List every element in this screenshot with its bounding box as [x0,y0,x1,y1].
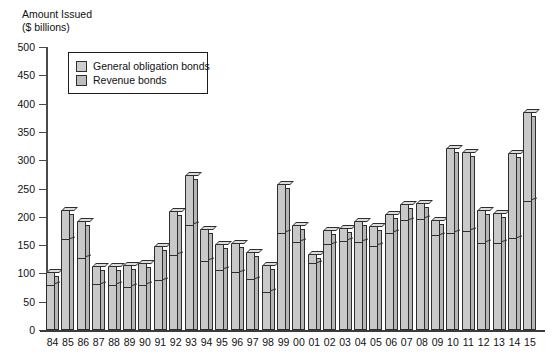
bar [354,221,367,330]
bar-side-face [332,234,336,330]
bar-front-face [200,229,209,330]
bar-chart: Amount Issued($ billions) 05010015020025… [0,0,558,364]
y-axis-label: 400 [1,98,35,110]
y-axis-tick [39,217,46,218]
bar-front-face [416,203,425,330]
bar-segment-divider [262,292,271,293]
bar-front-face [477,210,486,330]
legend-label-general-obligation-bonds: General obligation bonds [93,60,210,72]
bar-side-face [471,156,475,330]
bar-segment-divider [46,285,55,286]
bar-front-face [123,265,132,330]
bar-top-face [231,240,248,244]
bar-front-face [462,152,471,330]
x-axis-label: 15 [520,336,539,348]
bar-top-face [416,200,433,204]
bar [262,265,275,330]
bar-segment-divider [154,280,163,281]
y-axis-tick [39,132,46,133]
bar-front-face [231,243,240,330]
bar [77,221,90,330]
bar-side-face [455,152,459,330]
bar-side-face [394,218,398,330]
bar [446,148,459,330]
bar [169,211,182,330]
bar-segment-divider [493,243,502,244]
bar [477,210,490,330]
bar [431,220,444,330]
bar-segment-divider [354,242,363,243]
bar [339,228,352,330]
bar-segment-divider [339,241,348,242]
y-axis-label: 350 [1,126,35,138]
bar-front-face [46,272,55,330]
bar-front-face [262,265,271,330]
legend-swatch-icon [76,75,87,86]
bar-segment-divider [446,233,455,234]
bar-side-face [86,225,90,330]
y-axis-tick [39,273,46,274]
bar-side-face [425,207,429,330]
bar-front-face [308,254,317,330]
bar [400,204,413,330]
legend-item-revenue-bonds: Revenue bonds [76,74,200,86]
bar-side-face [378,230,382,330]
bar-front-face [92,266,101,330]
bar-segment-divider [292,242,301,243]
bar [231,243,244,330]
bar-front-face [523,112,532,330]
bar-top-face [77,218,94,222]
bar-side-face [194,179,198,330]
y-axis-tick [39,47,46,48]
bar-top-face [523,109,540,113]
bar-side-face [348,232,352,330]
bar-segment-divider [308,263,317,264]
legend-swatch-icon [76,61,87,72]
bar-side-face [502,217,506,330]
bar [123,265,136,330]
bar-segment-divider [508,238,517,239]
bar-top-face [354,218,371,222]
bar-segment-divider [77,258,86,259]
bar-side-face [224,248,228,330]
bar-segment-divider [400,220,409,221]
bar [369,226,382,330]
bar-front-face [61,210,70,330]
bar-segment-divider [523,201,532,202]
bar-front-face [508,153,517,330]
bar [462,152,475,330]
bar-front-face [154,246,163,330]
y-axis-label: 0 [1,324,35,336]
bar-segment-divider [385,233,394,234]
y-axis-tick [39,75,46,76]
bar-side-face [163,250,167,330]
y-axis-tick [39,245,46,246]
bar [138,263,151,330]
bar-segment-divider [477,243,486,244]
y-axis-label: 200 [1,211,35,223]
bar-top-face [61,207,78,211]
bar-front-face [246,252,255,330]
bar-side-face [486,214,490,330]
bar-front-face [431,220,440,330]
bar-front-face [77,221,86,330]
bar-front-face [369,226,378,330]
bar-front-face [138,263,147,330]
bar-top-face [185,172,202,176]
legend-label-revenue-bonds: Revenue bonds [93,74,167,86]
bar-front-face [339,228,348,330]
bar [292,225,305,330]
bar-front-face [385,214,394,330]
bar [154,246,167,330]
y-axis-label: 300 [1,154,35,166]
bar-side-face [517,157,521,330]
bar-segment-divider [369,246,378,247]
bar-side-face [440,224,444,330]
y-axis-tick [39,160,46,161]
bar [277,184,290,330]
bar-side-face [409,208,413,330]
bar-front-face [354,221,363,330]
y-axis-label: 500 [1,41,35,53]
bar-side-face [286,188,290,330]
bar-segment-divider [416,219,425,220]
